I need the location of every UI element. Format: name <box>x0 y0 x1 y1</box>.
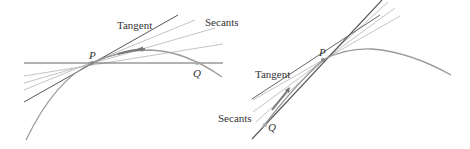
approach-arrow-shaft <box>272 90 288 110</box>
secants-label: Secants <box>218 112 252 124</box>
point-q-label: Q <box>193 67 201 79</box>
left-diagram: Tangent Secants P Q <box>24 15 239 140</box>
right-diagram: Tangent Secants P Q <box>218 0 451 139</box>
point-q-marker <box>263 123 267 127</box>
point-p-marker <box>321 58 325 62</box>
tangent-secant-diagram: Tangent Secants P Q Tangent Secants P Q <box>0 0 470 149</box>
secants-label: Secants <box>205 16 239 28</box>
curve <box>262 49 451 128</box>
point-q-marker <box>195 61 199 65</box>
tangent-label: Tangent <box>117 19 152 31</box>
point-p-label: P <box>88 49 96 61</box>
right-secant-lines <box>253 2 400 122</box>
point-p-marker <box>90 61 94 65</box>
tangent-label: Tangent <box>255 68 290 80</box>
point-q-label: Q <box>268 121 276 133</box>
secant-line <box>24 28 215 83</box>
secant-line <box>24 20 195 90</box>
point-p-label: P <box>318 46 326 58</box>
tangent-line <box>252 15 380 99</box>
